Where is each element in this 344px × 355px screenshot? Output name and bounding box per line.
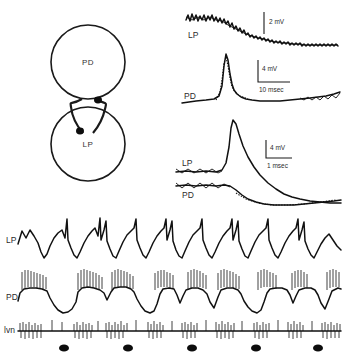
upper-pd-trace — [182, 54, 340, 103]
burst-markers — [59, 344, 323, 351]
lower-lp-label: LP — [182, 158, 193, 168]
lower-scalebar-time-label: 1 msec — [267, 162, 289, 169]
upper-right-recording: LP 2 mV PD 4 mV 10 msec — [182, 12, 340, 103]
upper-lp-trace — [186, 14, 338, 46]
upper-scalebar-4mv-label: 4 mV — [262, 65, 278, 72]
pd-cell-label: PD — [82, 58, 94, 67]
upper-lp-noise — [186, 17, 338, 45]
bottom-lvn-spikes — [20, 320, 340, 339]
burst-marker — [187, 344, 197, 351]
upper-pd-label: PD — [184, 91, 196, 101]
upper-pd-dotted-overlay — [216, 57, 248, 100]
lower-scalebar-voltage-label: 4 mV — [270, 144, 286, 151]
burst-marker — [59, 344, 69, 351]
burst-marker — [313, 344, 323, 351]
lower-lp-trace — [176, 120, 341, 203]
circuit-diagram: PD LP — [51, 25, 125, 181]
burst-marker — [251, 344, 261, 351]
bottom-pd-trace — [18, 287, 341, 313]
upper-scalebar-10msec-label: 10 msec — [259, 86, 284, 93]
bottom-rhythm-recording: LP PD — [4, 218, 341, 352]
bottom-lvn-label: lvn — [4, 325, 15, 335]
bottom-pd-spikes — [22, 269, 339, 290]
bottom-lp-label: LP — [6, 235, 17, 245]
bottom-lp-trace — [18, 218, 341, 258]
synapse-terminal-upper — [94, 97, 102, 104]
synapse-terminal-lower — [76, 128, 84, 135]
burst-marker — [123, 344, 133, 351]
figure-panel: PD LP LP 2 mV PD 4 mV 10 msec — [0, 0, 344, 355]
lower-right-recording: LP PD 4 mV 1 msec — [176, 120, 341, 205]
upper-scalebar-2mv-label: 2 mV — [269, 18, 285, 25]
lower-pd-label: PD — [182, 190, 194, 200]
lp-cell-label: LP — [83, 140, 94, 149]
upper-lp-label: LP — [188, 30, 199, 40]
bottom-pd-label: PD — [6, 292, 18, 302]
